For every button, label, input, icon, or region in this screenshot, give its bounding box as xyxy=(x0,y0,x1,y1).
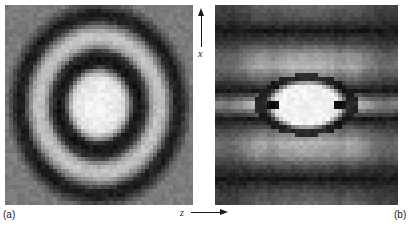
arrow-right-icon xyxy=(220,209,228,215)
axis-label-z: z xyxy=(180,207,184,218)
horizontal-axis-z: z xyxy=(178,204,230,222)
intensity-map-panel-b xyxy=(215,5,398,205)
intensity-map-panel-a xyxy=(5,5,193,205)
panel-caption-a: (a) xyxy=(3,209,15,220)
axis-shaft-horizontal xyxy=(191,212,222,213)
axis-shaft-vertical xyxy=(201,15,202,47)
vertical-axis-x: x xyxy=(193,6,211,62)
intensity-map-canvas-a xyxy=(5,5,193,205)
intensity-map-canvas-b xyxy=(215,5,398,205)
panel-caption-b: (b) xyxy=(394,209,406,220)
figure-container: (a) (b) x z xyxy=(0,0,419,232)
axis-label-x: x xyxy=(198,48,202,59)
